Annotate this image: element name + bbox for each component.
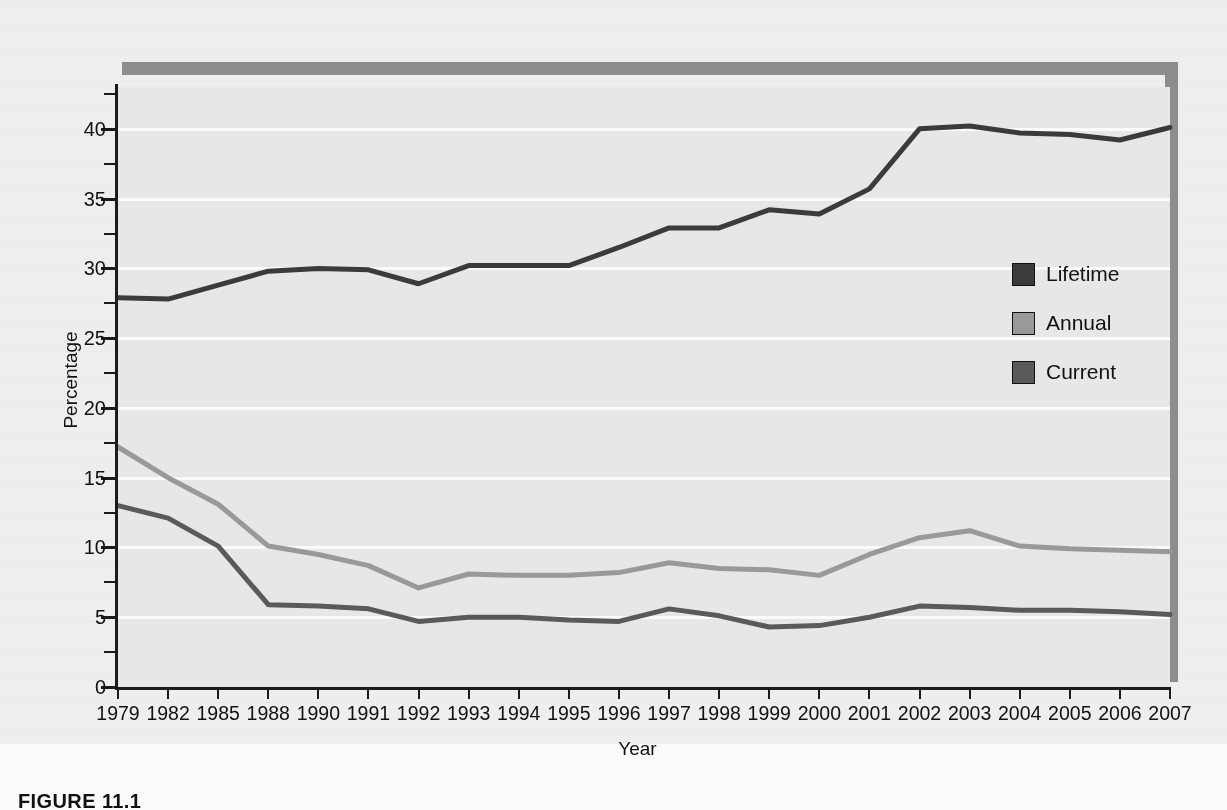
figure-caption: FIGURE 11.1 bbox=[18, 790, 141, 810]
x-tick-label: 1982 bbox=[146, 702, 189, 725]
x-axis-title: Year bbox=[0, 738, 1227, 760]
x-tick-label: 1997 bbox=[647, 702, 690, 725]
x-tick-label: 1992 bbox=[397, 702, 440, 725]
legend-item-annual: Annual bbox=[1012, 311, 1120, 335]
x-tick-label: 2002 bbox=[898, 702, 941, 725]
legend-label: Annual bbox=[1046, 311, 1111, 335]
x-tick-label: 1988 bbox=[247, 702, 290, 725]
x-tick-label: 2007 bbox=[1148, 702, 1191, 725]
y-tick-label: 0 bbox=[46, 676, 106, 699]
x-tick-label: 1991 bbox=[347, 702, 390, 725]
x-tick-label: 2004 bbox=[998, 702, 1041, 725]
x-tick-label: 1996 bbox=[597, 702, 640, 725]
x-tick-label: 2001 bbox=[848, 702, 891, 725]
x-tick-label: 1993 bbox=[447, 702, 490, 725]
x-tick-label: 2006 bbox=[1098, 702, 1141, 725]
legend-swatch-icon bbox=[1012, 361, 1035, 384]
x-tick-label: 1985 bbox=[196, 702, 239, 725]
x-tick-label: 1990 bbox=[297, 702, 340, 725]
legend-item-lifetime: Lifetime bbox=[1012, 262, 1120, 286]
legend-item-current: Current bbox=[1012, 360, 1120, 384]
x-tick-label: 2005 bbox=[1048, 702, 1091, 725]
x-tick-label: 2003 bbox=[948, 702, 991, 725]
x-tick-label: 1995 bbox=[547, 702, 590, 725]
x-tick-label: 2000 bbox=[798, 702, 841, 725]
x-tick-label: 1999 bbox=[748, 702, 791, 725]
y-tick-label: 40 bbox=[46, 117, 106, 140]
y-tick-label: 30 bbox=[46, 257, 106, 280]
chart-legend: LifetimeAnnualCurrent bbox=[1012, 262, 1120, 384]
x-tick-label: 1979 bbox=[96, 702, 139, 725]
x-tick-label: 1998 bbox=[697, 702, 740, 725]
y-tick-label: 10 bbox=[46, 536, 106, 559]
x-tick-label: 1994 bbox=[497, 702, 540, 725]
x-axis-title-text: Year bbox=[618, 738, 656, 759]
y-tick-label: 15 bbox=[46, 466, 106, 489]
legend-swatch-icon bbox=[1012, 312, 1035, 335]
legend-swatch-icon bbox=[1012, 263, 1035, 286]
y-tick-label: 35 bbox=[46, 187, 106, 210]
y-axis-title: Percentage bbox=[60, 331, 82, 428]
legend-label: Lifetime bbox=[1046, 262, 1120, 286]
legend-label: Current bbox=[1046, 360, 1116, 384]
y-tick-label: 5 bbox=[46, 606, 106, 629]
line-chart: 0510152025303540 19791982198519881990199… bbox=[0, 0, 1227, 760]
